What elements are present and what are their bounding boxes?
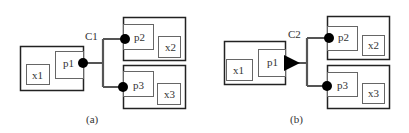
port-label-p2: p2 — [338, 32, 349, 43]
port-label-p2: p2 — [134, 32, 145, 43]
connector-c2-wire — [295, 38, 329, 86]
circle-marker-icon — [118, 82, 128, 92]
connector-label-c1: C1 — [85, 31, 98, 42]
component-label-x3: x3 — [164, 89, 175, 100]
connector-c1-wire — [83, 39, 124, 87]
port-label-p1: p1 — [267, 57, 278, 68]
caption-b: (b) — [290, 114, 303, 125]
circle-marker-icon — [324, 33, 334, 43]
caption-a: (a) — [86, 114, 98, 125]
component-label-x2: x2 — [165, 42, 176, 53]
component-label-x3: x3 — [368, 88, 379, 99]
port-label-p3: p3 — [337, 80, 348, 91]
component-label-x1: x1 — [233, 65, 244, 76]
port-label-p1: p1 — [63, 58, 74, 69]
component-label-x1: x1 — [32, 70, 43, 81]
panel-a — [21, 18, 186, 109]
panel-b — [225, 17, 390, 109]
circle-marker-icon — [120, 34, 130, 44]
triangle-marker-icon — [284, 55, 300, 71]
diagram-canvas — [0, 0, 409, 133]
component-label-x2: x2 — [368, 40, 379, 51]
connector-label-c2: C2 — [288, 29, 301, 40]
circle-marker-icon — [78, 58, 88, 68]
port-label-p3: p3 — [133, 80, 144, 91]
circle-marker-icon — [322, 81, 332, 91]
